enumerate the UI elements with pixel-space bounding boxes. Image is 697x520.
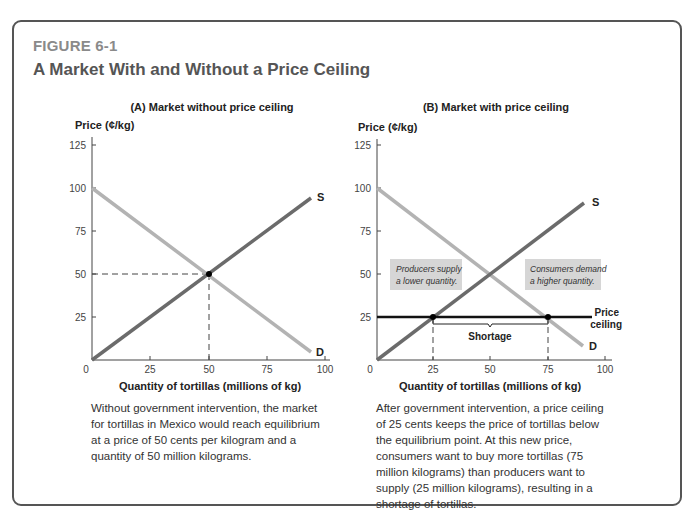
panel-b-xtick: 75 <box>542 364 554 375</box>
panel-b-axes: Price (¢/kg) 125 100 75 50 25 0 25 50 75… <box>354 121 613 392</box>
panel-b-ytick: 75 <box>360 226 372 237</box>
panel-b-ylabel: Price (¢/kg) <box>358 121 418 133</box>
price-ceiling-label-line-2: ceiling <box>590 319 622 330</box>
panel-a-caption: Without government intervention, the mar… <box>91 400 321 464</box>
panel-b-ytick: 50 <box>360 269 372 280</box>
producers-callout-line-2: a lower quantity. <box>396 276 457 286</box>
quantity-supplied-point <box>430 314 436 320</box>
consumers-callout-line-2: a higher quantity. <box>530 276 595 286</box>
panel-b-demand-label: D <box>589 340 597 352</box>
panel-b-ytick: 125 <box>354 140 371 151</box>
panel-b-xtick: 100 <box>597 364 614 375</box>
panel-b-xtick: 0 <box>367 364 373 375</box>
panel-b-caption: After government intervention, a price c… <box>376 400 616 512</box>
panel-b-ytick: 25 <box>360 312 372 323</box>
panel-b-ytick: 100 <box>354 183 371 194</box>
shortage-label: Shortage <box>468 331 512 342</box>
price-ceiling-label-line-1: Price <box>595 307 620 318</box>
panel-b-supply-label: S <box>592 196 599 208</box>
panel-b-xtick: 50 <box>484 364 496 375</box>
shortage-bracket <box>433 320 548 327</box>
quantity-demanded-point <box>545 314 551 320</box>
producers-callout-line-1: Producers supply <box>396 264 462 274</box>
panel-b-xlabel: Quantity of tortillas (millions of kg) <box>399 380 581 392</box>
consumers-callout-line-1: Consumers demand <box>530 264 607 274</box>
panel-b-xtick: 25 <box>427 364 439 375</box>
